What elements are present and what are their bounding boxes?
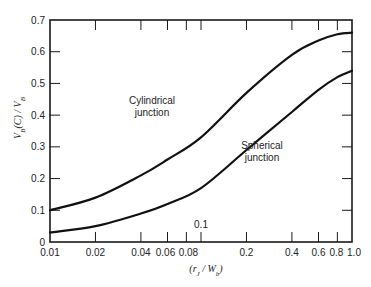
subscript: B	[19, 96, 27, 101]
spherical-junction-curve	[50, 71, 352, 233]
x-tick-label: 0.2	[240, 247, 254, 258]
x-tick-label: 0.1	[194, 219, 208, 230]
curve-labels: CylindricaljunctionSphericaljunction	[129, 95, 283, 163]
data-curves	[50, 33, 352, 233]
y-tick-label: 0.2	[31, 173, 45, 184]
cylindrical-junction-label: Cylindricaljunction	[129, 95, 175, 118]
plot-border	[50, 20, 352, 242]
x-tick-label: 0.01	[40, 247, 60, 258]
x-tick-label: 0.04	[131, 247, 151, 258]
y-tick-label: 0.1	[31, 205, 45, 216]
chart: 0.010.020.040.060.080.10.20.40.60.81.0 0…	[0, 0, 371, 287]
title-text: (r	[189, 263, 196, 275]
curve-label-line: junction	[244, 152, 279, 163]
curve-label-line: Spherical	[241, 140, 283, 151]
x-tick-label: 0.02	[86, 247, 106, 258]
x-tick-label: 0.4	[285, 247, 299, 258]
title-text: / W	[200, 263, 218, 274]
y-tick-label: 0.3	[31, 141, 45, 152]
cylindrical-junction-curve	[50, 33, 352, 211]
x-axis-title: (rJ / Wb)	[189, 263, 223, 278]
x-tick-label: 1.0	[347, 247, 361, 258]
title-text: )	[218, 263, 223, 275]
y-axis-title: VB(C) / VB	[12, 96, 27, 139]
x-tick-label: 0.08	[179, 247, 199, 258]
y-tick-label: 0.7	[31, 15, 45, 26]
curve-label-line: junction	[134, 107, 169, 118]
spherical-junction-label: Sphericaljunction	[241, 140, 283, 163]
plot-frame	[50, 20, 352, 242]
x-tick-label: 0.06	[156, 247, 176, 258]
y-tick-label: 0	[39, 237, 45, 248]
y-tick-label: 0.4	[31, 110, 45, 121]
curve-label-line: Cylindrical	[129, 95, 175, 106]
y-tick-label: 0.6	[31, 46, 45, 57]
x-tick-label: 0.8	[329, 247, 343, 258]
x-tick-label: 0.6	[312, 247, 326, 258]
y-tick-label: 0.5	[31, 78, 45, 89]
x-axis-ticks: 0.010.020.040.060.080.10.20.40.60.81.0	[40, 20, 361, 258]
y-axis-ticks: 00.10.20.30.40.50.60.7	[31, 15, 352, 248]
title-text: (C) / V	[12, 99, 24, 128]
